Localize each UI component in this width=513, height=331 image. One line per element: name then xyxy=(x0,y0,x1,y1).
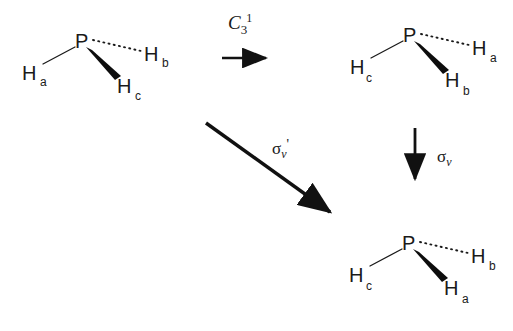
atom-p-c3-product: P xyxy=(403,25,416,45)
operation-c3-superscript: 1 xyxy=(246,11,252,25)
atom-h-c3-product-c: H xyxy=(350,57,364,77)
atom-p-sigma-product: P xyxy=(402,233,415,253)
operation-sigma-v-prime-mark: ' xyxy=(287,137,290,152)
bond-wedge-Hb xyxy=(414,41,449,74)
operation-label-c3: C31 xyxy=(228,12,252,36)
operation-sigma-v-subscript: v xyxy=(446,155,451,169)
bond-plain-Hc xyxy=(371,41,403,58)
operation-label-sigma-v-prime: σv' xyxy=(272,138,289,160)
atom-h-c3-product-a: H xyxy=(472,38,486,58)
atom-h-start-a: H xyxy=(22,63,36,83)
figure-canvas: P H a H b H c P H c H a H b P H c H b H … xyxy=(0,0,513,331)
molecule-start-bonds xyxy=(43,40,141,80)
atom-h-start-b-subscript: b xyxy=(162,57,169,69)
operation-c3-symbol: C xyxy=(228,12,241,33)
atom-h-c3-product-a-subscript: a xyxy=(490,52,497,64)
atom-h-c3-product-b-subscript: b xyxy=(463,85,470,97)
atom-h-sigma-product-b: H xyxy=(471,246,485,266)
operation-sigma-v-symbol: σ xyxy=(437,147,446,166)
atom-p-start: P xyxy=(75,31,88,51)
bond-wedge-Hc xyxy=(86,47,121,80)
atom-h-c3-product-b: H xyxy=(445,70,459,90)
molecule-c3-product-bonds xyxy=(371,34,469,74)
operation-sigma-v-prime-symbol: σ xyxy=(272,139,281,158)
atom-h-sigma-product-a: H xyxy=(444,278,458,298)
arrow-sigma-v-prime-diagonal xyxy=(206,123,330,212)
molecule-sigma-product-bonds xyxy=(370,242,468,282)
bond-plain-Hc2 xyxy=(370,249,402,266)
bond-dashed-Hb2 xyxy=(420,242,468,253)
bond-plain-Ha xyxy=(43,47,75,64)
atom-h-sigma-product-a-subscript: a xyxy=(462,293,469,305)
atom-h-start-a-subscript: a xyxy=(40,76,47,88)
bond-dashed-Hb xyxy=(93,40,141,51)
atom-h-c3-product-c-subscript: c xyxy=(366,72,372,84)
atom-h-sigma-product-c: H xyxy=(349,265,363,285)
atom-h-sigma-product-b-subscript: b xyxy=(489,260,496,272)
operation-label-sigma-v: σv xyxy=(437,148,452,168)
atom-h-sigma-product-c-subscript: c xyxy=(366,280,372,292)
atom-h-start-b: H xyxy=(144,44,158,64)
bond-dashed-Ha xyxy=(421,34,469,45)
atom-h-start-c-subscript: c xyxy=(135,90,141,102)
bond-wedge-Ha2 xyxy=(413,249,448,282)
atom-h-start-c: H xyxy=(117,76,131,96)
